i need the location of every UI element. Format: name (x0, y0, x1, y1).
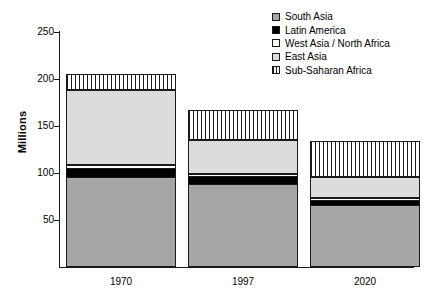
legend-label-west-asia-north-africa: West Asia / North Africa (285, 38, 390, 49)
x-axis-line (59, 267, 414, 268)
legend-item-south-asia[interactable]: South Asia (272, 10, 432, 23)
x-tick-label-1997: 1997 (188, 276, 298, 288)
legend-item-sub-saharan-africa[interactable]: Sub-Saharan Africa (272, 64, 432, 77)
legend-item-east-asia[interactable]: East Asia (272, 50, 432, 63)
legend-swatch-east-asia-icon (272, 53, 280, 61)
y-tick-label-200: 200 (20, 74, 54, 84)
bar-segment-2020-south-asia[interactable] (310, 205, 420, 267)
bar-segment-1970-south-asia[interactable] (66, 177, 176, 267)
bar-segment-1970-sub-saharan-africa[interactable] (66, 74, 176, 90)
bar-1970[interactable] (66, 74, 176, 267)
bar-segment-1970-east-asia[interactable] (66, 90, 176, 166)
legend-swatch-west-asia-north-africa-icon (272, 39, 280, 47)
bar-segment-2020-east-asia[interactable] (310, 177, 420, 198)
y-tick-label-250: 250 (20, 27, 54, 37)
x-tick-label-1970: 1970 (66, 276, 176, 288)
x-tick-label-2020: 2020 (310, 276, 420, 288)
bar-segment-1997-east-asia[interactable] (188, 140, 298, 174)
bar-segment-1970-latin-america[interactable] (66, 169, 176, 178)
bar-segment-1970-west-asia[interactable] (66, 165, 176, 169)
bar-segment-1997-west-asia[interactable] (188, 174, 298, 178)
legend-label-east-asia: East Asia (285, 51, 327, 62)
y-tick-label-100: 100 (20, 168, 54, 178)
bar-segment-2020-west-asia[interactable] (310, 198, 420, 201)
bar-segment-1997-south-asia[interactable] (188, 184, 298, 267)
y-tick-label-150: 150 (20, 121, 54, 131)
bar-1997[interactable] (188, 110, 298, 267)
y-axis-tick-labels: 250 200 150 100 50 (14, 0, 54, 302)
legend-swatch-south-asia-icon (272, 13, 280, 21)
bar-segment-2020-sub-saharan-africa[interactable] (310, 141, 420, 178)
legend-item-latin-america[interactable]: Latin America (272, 23, 432, 36)
legend-item-west-asia-north-africa[interactable]: West Asia / North Africa (272, 37, 432, 50)
legend-label-sub-saharan-africa: Sub-Saharan Africa (285, 65, 372, 76)
legend-swatch-latin-america-icon (272, 26, 280, 34)
chart-legend: South Asia Latin America West Asia / Nor… (272, 10, 432, 77)
legend-label-latin-america: Latin America (285, 25, 346, 36)
bar-segment-1997-latin-america[interactable] (188, 177, 298, 184)
stacked-bar-chart: Millions 250 200 150 100 50 (0, 0, 433, 302)
bar-segment-1997-sub-saharan-africa[interactable] (188, 110, 298, 139)
bar-segment-2020-latin-america[interactable] (310, 201, 420, 205)
bar-2020[interactable] (310, 141, 420, 267)
y-tick-label-50: 50 (20, 215, 54, 225)
legend-label-south-asia: South Asia (285, 11, 333, 22)
legend-swatch-sub-saharan-africa-icon (272, 66, 280, 74)
